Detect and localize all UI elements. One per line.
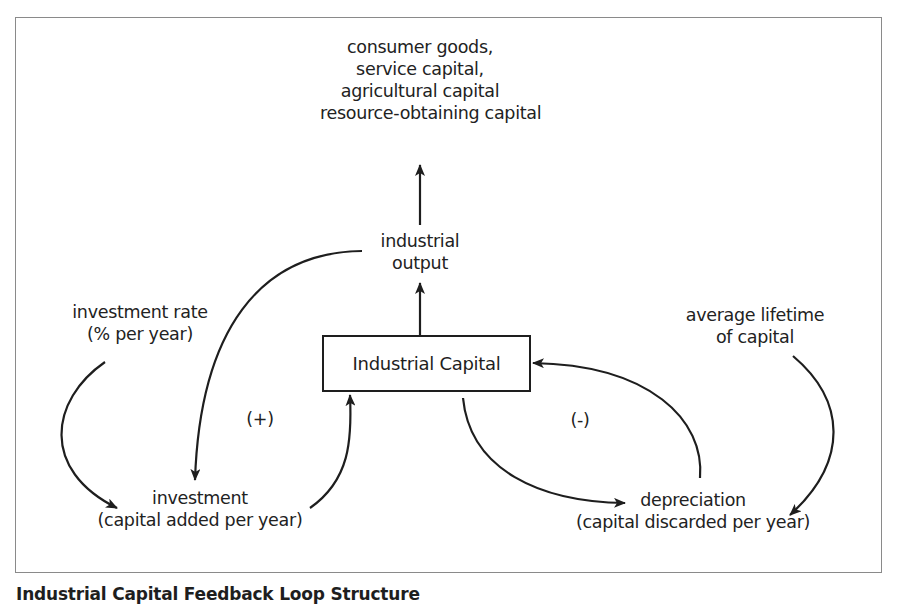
outputs-line-1: consumer goods,	[320, 36, 520, 58]
industrial-output-line-1: industrial	[360, 230, 480, 252]
link-capital-to-depreciation	[463, 398, 625, 503]
plus-sign: (+)	[246, 409, 273, 429]
industrial-output-line-2: output	[360, 252, 480, 274]
outputs-line-3: agricultural capital	[320, 80, 520, 102]
investment-line-2: (capital added per year)	[95, 509, 305, 531]
balancing-polarity: (-)	[560, 409, 600, 431]
investment-rate-label: investment rate (% per year)	[60, 301, 220, 345]
outputs-label: consumer goods, service capital, agricul…	[320, 36, 520, 124]
figure-caption: Industrial Capital Feedback Loop Structu…	[16, 584, 420, 604]
depreciation-label: depreciation (capital discarded per year…	[568, 489, 818, 533]
average-lifetime-label: average lifetime of capital	[680, 304, 830, 348]
outputs-line-2: service capital,	[320, 58, 520, 80]
investment-rate-line-1: investment rate	[60, 301, 220, 323]
link-depreciation-to-capital	[533, 363, 700, 478]
outputs-line-4: resource-obtaining capital	[320, 102, 520, 124]
depreciation-line-2: (capital discarded per year)	[568, 511, 818, 533]
investment-line-1: investment	[95, 487, 305, 509]
average-lifetime-line-2: of capital	[680, 326, 830, 348]
industrial-output-label: industrial output	[360, 230, 480, 274]
stock-label: Industrial Capital	[353, 353, 501, 374]
minus-sign: (-)	[570, 410, 589, 430]
depreciation-line-1: depreciation	[568, 489, 818, 511]
link-investment-to-capital	[310, 395, 351, 508]
investment-rate-line-2: (% per year)	[60, 323, 220, 345]
reinforcing-polarity: (+)	[240, 408, 280, 430]
average-lifetime-line-1: average lifetime	[680, 304, 830, 326]
investment-label: investment (capital added per year)	[95, 487, 305, 531]
industrial-capital-stock: Industrial Capital	[322, 335, 531, 392]
